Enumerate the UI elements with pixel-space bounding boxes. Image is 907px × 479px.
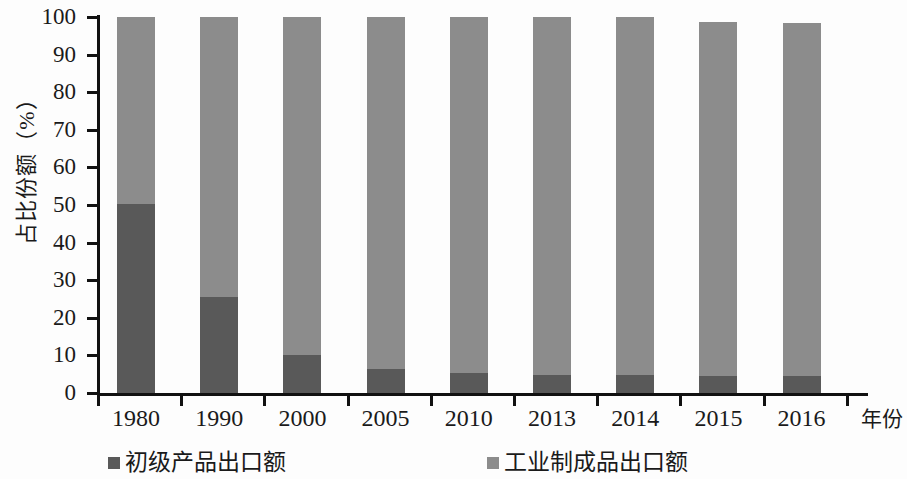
bar-segment [783, 23, 821, 376]
y-tick-label: 100 [24, 5, 76, 28]
bar-segment [699, 376, 737, 393]
y-tick-label: 50 [24, 193, 76, 216]
chart-legend: 初级产品出口额工业制成品出口额 [0, 447, 907, 479]
legend-item[interactable]: 工业制成品出口额 [487, 450, 688, 476]
y-tick-label: 60 [24, 155, 76, 178]
legend-label: 工业制成品出口额 [504, 450, 688, 476]
legend-label: 初级产品出口额 [125, 450, 286, 476]
x-axis-line [97, 393, 868, 396]
bar-segment [533, 375, 571, 393]
x-tick-label: 1990 [178, 403, 260, 433]
bar-column [783, 17, 821, 393]
bar-column [117, 17, 155, 393]
x-tick-label: 2015 [677, 403, 759, 433]
bar-column [283, 17, 321, 393]
legend-swatch-icon [487, 457, 499, 469]
bar-segment [283, 355, 321, 393]
x-tick-mark [846, 396, 849, 406]
bar-segment [200, 297, 238, 393]
bar-segment [367, 17, 405, 369]
bar-segment [783, 376, 821, 393]
legend-item[interactable]: 初级产品出口额 [108, 450, 286, 476]
bar-segment [533, 17, 571, 375]
x-tick-label: 2010 [428, 403, 510, 433]
y-tick-label: 90 [24, 43, 76, 66]
bar-segment [367, 369, 405, 393]
x-tick-label: 2016 [761, 403, 843, 433]
y-tick-label: 0 [24, 381, 76, 404]
y-tick-label: 80 [24, 80, 76, 103]
bar-column [616, 17, 654, 393]
y-tick-label: 20 [24, 306, 76, 329]
stacked-bar-chart: 占比份额（%） 0102030405060708090100 198019902… [0, 0, 907, 479]
bar-segment [616, 17, 654, 375]
y-axis-line [97, 15, 100, 396]
y-tick-label: 30 [24, 268, 76, 291]
x-tick-label: 2005 [345, 403, 427, 433]
bar-column [699, 17, 737, 393]
bar-segment [616, 375, 654, 393]
bar-segment [699, 22, 737, 377]
bar-column [533, 17, 571, 393]
y-tick-label: 10 [24, 343, 76, 366]
y-tick-label: 40 [24, 231, 76, 254]
bar-segment [283, 17, 321, 355]
x-tick-label: 2014 [594, 403, 676, 433]
x-tick-label: 2013 [511, 403, 593, 433]
bar-segment [200, 17, 238, 297]
bar-column [200, 17, 238, 393]
bar-segment [117, 17, 155, 204]
bar-column [367, 17, 405, 393]
bar-segment [450, 373, 488, 393]
x-tick-label: 1980 [95, 403, 177, 433]
bar-segment [450, 17, 488, 373]
bar-column [450, 17, 488, 393]
bar-segment [117, 204, 155, 393]
x-axis-title: 年份 [861, 404, 903, 434]
y-tick-label: 70 [24, 118, 76, 141]
legend-swatch-icon [108, 457, 120, 469]
x-tick-label: 2000 [261, 403, 343, 433]
